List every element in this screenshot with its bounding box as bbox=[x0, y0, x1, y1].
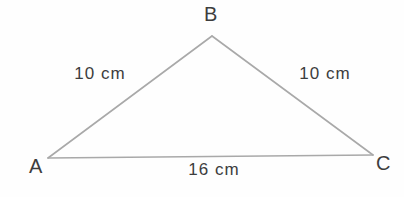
side-ab-line bbox=[48, 36, 212, 158]
triangle-diagram: B A C 10 cm 10 cm 16 cm bbox=[0, 0, 404, 197]
vertex-label-a: A bbox=[29, 155, 43, 177]
side-label-ab: 10 cm bbox=[74, 65, 125, 84]
side-bc-line bbox=[212, 36, 373, 155]
vertex-label-b: B bbox=[204, 3, 218, 25]
side-label-bc: 10 cm bbox=[299, 65, 350, 84]
vertex-label-c: C bbox=[376, 152, 391, 174]
side-ac-line bbox=[48, 155, 373, 158]
side-label-ac: 16 cm bbox=[188, 161, 239, 180]
